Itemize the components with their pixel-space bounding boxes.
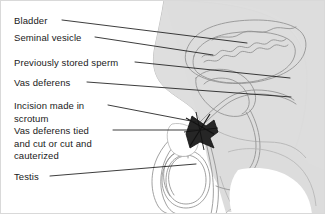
label-bladder: Bladder	[14, 15, 47, 28]
label-previously-stored-sperm: Previously stored sperm	[14, 57, 118, 70]
label-testis: Testis	[14, 171, 39, 184]
label-vas-cut-line3: cauterized	[14, 150, 59, 163]
leader-testis	[50, 164, 196, 176]
label-incision-line1: Incision made in	[14, 100, 84, 113]
leader-incision	[108, 105, 196, 122]
label-seminal-vesicle: Seminal vesicle	[14, 32, 82, 45]
label-vas-cut-line1: Vas deferens tied	[14, 125, 89, 138]
label-vas-cut-line2: and cut or cut and	[14, 138, 92, 151]
label-incision-line2: scrotum	[14, 113, 48, 126]
label-vas-deferens: Vas deferens	[14, 77, 70, 90]
testis-oval	[162, 150, 210, 208]
vasectomy-diagram: Bladder Seminal vesicle Previously store…	[0, 0, 325, 214]
